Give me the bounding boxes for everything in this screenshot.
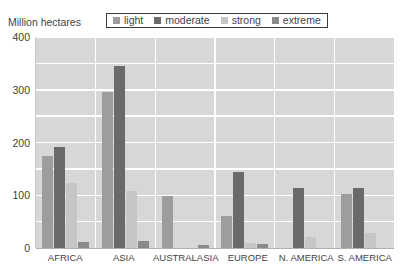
chart-legend: lightmoderatestrongextreme bbox=[106, 13, 328, 28]
legend-item-light[interactable]: light bbox=[113, 15, 143, 26]
x-axis-label-australasia: AUSTRALASIA bbox=[153, 252, 218, 272]
bar-group-s-america bbox=[334, 37, 394, 248]
y-axis-tick-100: 100 bbox=[12, 190, 30, 201]
x-axis-label-n-america: N. AMERICA bbox=[277, 252, 336, 272]
bar-asia-extreme[interactable] bbox=[138, 241, 149, 248]
bar-asia-moderate[interactable] bbox=[114, 66, 125, 248]
y-axis-title: Million hectares bbox=[8, 16, 81, 28]
y-axis-tick-300: 300 bbox=[12, 84, 30, 95]
bar-n-america-moderate[interactable] bbox=[293, 188, 304, 248]
bar-australasia-light[interactable] bbox=[162, 196, 173, 248]
bar-group-n-america bbox=[275, 37, 335, 248]
plot-area bbox=[36, 37, 394, 248]
bar-s-america-strong[interactable] bbox=[365, 233, 376, 248]
x-axis-label-asia: ASIA bbox=[95, 252, 154, 272]
x-axis-label-africa: AFRICA bbox=[36, 252, 95, 272]
bar-group-asia bbox=[96, 37, 156, 248]
legend-swatch-icon bbox=[272, 17, 279, 24]
bar-groups bbox=[36, 37, 394, 248]
legend-label: extreme bbox=[283, 15, 321, 26]
legend-label: strong bbox=[232, 15, 261, 26]
bar-africa-moderate[interactable] bbox=[54, 147, 65, 248]
legend-swatch-icon bbox=[154, 17, 161, 24]
legend-label: light bbox=[124, 15, 143, 26]
bar-group-europe bbox=[215, 37, 275, 248]
bar-n-america-strong[interactable] bbox=[305, 237, 316, 248]
bar-s-america-light[interactable] bbox=[341, 194, 352, 248]
bar-africa-light[interactable] bbox=[42, 156, 53, 248]
legend-item-extreme[interactable]: extreme bbox=[272, 15, 321, 26]
y-axis-tick-400: 400 bbox=[12, 32, 30, 43]
x-axis-category-labels: AFRICAASIAAUSTRALASIAEUROPEN. AMERICAS. … bbox=[36, 252, 394, 272]
legend-swatch-icon bbox=[113, 17, 120, 24]
grouped-bar-chart: Million hectares lightmoderatestrongextr… bbox=[0, 0, 400, 276]
bar-europe-light[interactable] bbox=[221, 216, 232, 248]
y-axis-tick-200: 200 bbox=[12, 137, 30, 148]
bar-s-america-moderate[interactable] bbox=[353, 188, 364, 248]
x-axis-label-europe: EUROPE bbox=[218, 252, 277, 272]
bar-group-australasia bbox=[155, 37, 215, 248]
bar-europe-moderate[interactable] bbox=[233, 172, 244, 248]
y-axis-tick-0: 0 bbox=[24, 243, 30, 254]
bar-asia-strong[interactable] bbox=[126, 191, 137, 248]
bar-asia-light[interactable] bbox=[102, 92, 113, 248]
legend-swatch-icon bbox=[221, 17, 228, 24]
legend-item-moderate[interactable]: moderate bbox=[154, 15, 209, 26]
legend-item-strong[interactable]: strong bbox=[221, 15, 261, 26]
bar-group-africa bbox=[36, 37, 96, 248]
y-axis-line bbox=[35, 37, 36, 248]
legend-label: moderate bbox=[165, 15, 209, 26]
y-axis-tick-labels: 0100200300400 bbox=[0, 37, 34, 248]
bar-africa-strong[interactable] bbox=[66, 183, 77, 248]
x-axis-line bbox=[36, 248, 394, 249]
x-axis-label-s-america: S. AMERICA bbox=[335, 252, 394, 272]
